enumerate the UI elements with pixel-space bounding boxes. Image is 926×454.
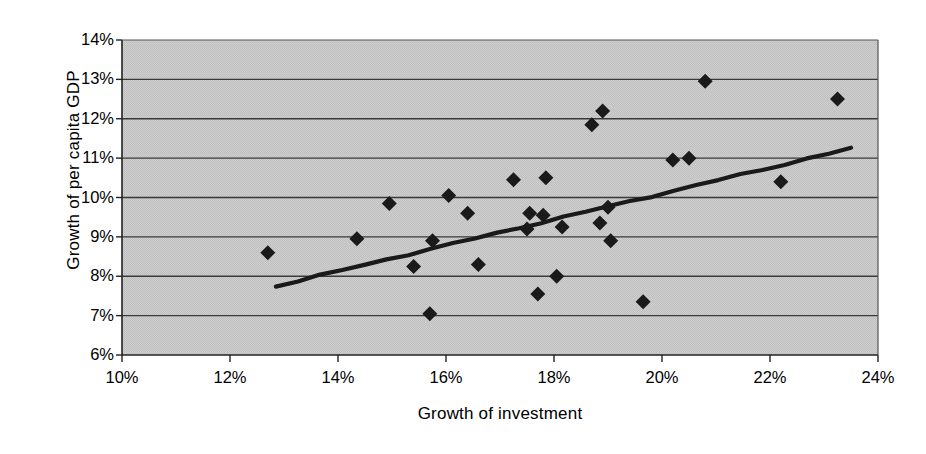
x-tick-label: 16% [411,368,481,387]
x-axis-ticks [122,355,878,362]
x-tick-label: 12% [195,368,265,387]
x-tick-label: 22% [735,368,805,387]
y-axis-ticks [116,40,122,355]
x-tick-label: 24% [843,368,913,387]
scatter-chart: Growth of per capita GDP 6%7%8%9%10%11%1… [0,0,926,454]
x-tick-label: 20% [627,368,697,387]
x-tick-label: 10% [87,368,157,387]
x-tick-label: 18% [519,368,589,387]
x-axis-title: Growth of investment [122,404,878,424]
x-tick-label: 14% [303,368,373,387]
